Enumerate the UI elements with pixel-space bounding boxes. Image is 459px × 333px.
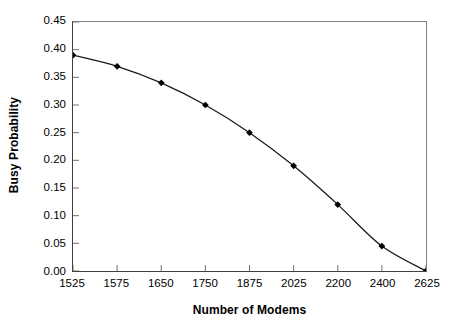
x-tick-label: 1875 — [237, 277, 263, 289]
y-tick-label: 0.10 — [30, 210, 66, 222]
plot-svg — [73, 22, 426, 271]
x-tick-label: 2400 — [370, 277, 396, 289]
x-axis-ticks — [73, 265, 426, 271]
y-tick-label: 0.45 — [30, 15, 66, 27]
y-tick-label: 0.20 — [30, 155, 66, 167]
x-axis-title: Number of Modems — [72, 303, 427, 317]
y-axis-title-label: Busy Probability — [7, 97, 21, 193]
data-point-marker — [202, 102, 209, 109]
y-tick-label: 0.25 — [30, 127, 66, 139]
x-tick-label: 2625 — [414, 277, 440, 289]
series-line — [73, 55, 426, 271]
y-tick-label: 0.35 — [30, 71, 66, 83]
busy-probability-chart: Busy Probability 0.000.050.100.150.200.2… — [0, 0, 459, 333]
y-tick-label: 0.40 — [30, 43, 66, 55]
y-axis-ticks — [73, 22, 79, 271]
x-axis-title-label: Number of Modems — [193, 303, 307, 317]
x-tick-label: 1650 — [148, 277, 174, 289]
x-tick-label: 1525 — [59, 277, 85, 289]
y-axis-title: Busy Probability — [0, 0, 28, 290]
x-tick-label: 2200 — [325, 277, 351, 289]
y-tick-label: 0.05 — [30, 238, 66, 250]
x-tick-label: 2025 — [281, 277, 307, 289]
y-tick-label: 0.15 — [30, 183, 66, 195]
x-tick-label: 1750 — [192, 277, 218, 289]
data-point-marker — [158, 79, 165, 86]
data-point-marker — [73, 52, 76, 59]
plot-area — [72, 21, 427, 272]
x-axis-tick-labels: 152515751650175018752025220024002625 — [72, 277, 427, 295]
data-point-marker — [114, 63, 121, 70]
x-tick-label: 1575 — [104, 277, 130, 289]
y-tick-label: 0.30 — [30, 99, 66, 111]
